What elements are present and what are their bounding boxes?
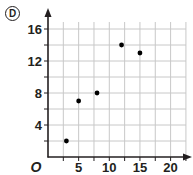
scatter-chart: 4812165101520O [0, 0, 193, 175]
x-tick-label: 15 [133, 160, 147, 175]
data-point [64, 139, 69, 144]
origin-label: O [31, 159, 42, 175]
grid-lines [48, 22, 186, 157]
y-tick-label: 16 [28, 22, 42, 37]
axes [44, 8, 192, 161]
y-tick-label: 8 [35, 86, 42, 101]
x-tick-label: 20 [163, 160, 177, 175]
y-axis-arrow-icon [45, 8, 52, 17]
data-point [138, 51, 143, 56]
y-tick-label: 12 [28, 54, 42, 69]
data-point [95, 91, 100, 96]
x-tick-label: 5 [75, 160, 82, 175]
x-axis-arrow-icon [183, 154, 192, 161]
data-point [76, 99, 81, 104]
data-point [119, 43, 124, 48]
x-tick-label: 10 [102, 160, 116, 175]
y-tick-label: 4 [35, 118, 43, 133]
